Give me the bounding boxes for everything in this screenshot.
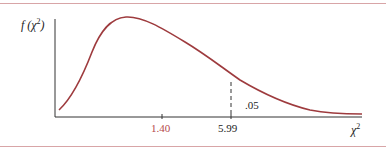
- chi-square-plot: [0, 0, 386, 149]
- tick-label-5-99: 5.99: [218, 122, 237, 134]
- tail-area-label: .05: [245, 99, 259, 111]
- y-axis-label: f (χ2): [21, 17, 45, 33]
- tick-label-1-40: 1.40: [151, 122, 170, 134]
- density-curve: [59, 17, 362, 114]
- x-axis-label: χ2: [351, 122, 360, 138]
